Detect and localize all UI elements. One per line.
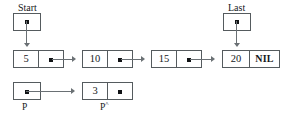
- node-1-to-node-2-line: [52, 59, 72, 60]
- start-pointer-box: [13, 13, 41, 31]
- last-pointer-box: [223, 13, 251, 31]
- p-pointer-label: P: [22, 103, 27, 113]
- node-4-next-cell: NIL: [249, 50, 280, 68]
- start-arrow-head-icon: [24, 43, 30, 47]
- node-2-to-node-3-line: [121, 59, 141, 60]
- last-pointer-label: Last: [228, 3, 245, 13]
- linked-list-diagram: Start Last 5 10 15 20 NIL P 3 P^: [0, 0, 289, 120]
- detached-node-data-cell: 3: [82, 82, 108, 100]
- p-arrow-head-icon: [71, 88, 75, 94]
- node-3-data-cell: 15: [151, 50, 177, 68]
- p-deref-caret: ^: [105, 100, 108, 108]
- node-1-arrow-head-icon: [72, 56, 76, 62]
- node-3-to-node-4-line: [190, 59, 211, 60]
- node-3-arrow-head-icon: [211, 56, 215, 62]
- last-arrow-head-icon: [234, 43, 240, 47]
- node-4-data-cell: 20: [222, 50, 250, 68]
- last-to-node4-line: [236, 21, 237, 43]
- detached-node-next-cell: [107, 82, 133, 100]
- p-to-detached-node-line: [26, 91, 71, 92]
- node-1-data-cell: 5: [13, 50, 39, 68]
- pointer-dot-icon: [118, 90, 122, 94]
- node-2-data-cell: 10: [82, 50, 108, 68]
- p-deref-label: P^: [100, 103, 109, 113]
- start-to-node1-line: [26, 21, 27, 43]
- start-pointer-label: Start: [18, 3, 37, 13]
- node-2-arrow-head-icon: [141, 56, 145, 62]
